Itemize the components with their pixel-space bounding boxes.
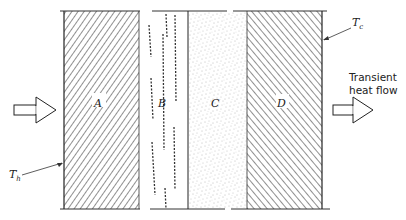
flow-label-line1: Transient: [348, 71, 397, 83]
layer-a: [64, 11, 139, 209]
svg-text:Tc: Tc: [352, 16, 363, 31]
cold-surface-label: Tc: [323, 16, 363, 40]
tc-subscript: c: [359, 23, 363, 31]
layer-c-label: C: [211, 97, 220, 110]
layer-c: [189, 12, 247, 208]
th-subscript: h: [16, 175, 21, 183]
layer-a-label: A: [93, 97, 102, 110]
svg-text:Th: Th: [9, 168, 21, 183]
layer-d: [247, 11, 322, 209]
composite-wall-diagram: A B C D Transient heat flow Th Tc: [0, 0, 406, 220]
heat-out-arrow-icon: [333, 97, 373, 123]
layer-d-label: D: [276, 97, 286, 110]
heat-in-arrow-icon: [14, 97, 56, 123]
layer-b: [149, 11, 188, 209]
hot-surface-label: Th: [9, 163, 63, 183]
layer-b-label: B: [157, 97, 166, 110]
flow-label-line2: heat flow: [349, 84, 398, 96]
